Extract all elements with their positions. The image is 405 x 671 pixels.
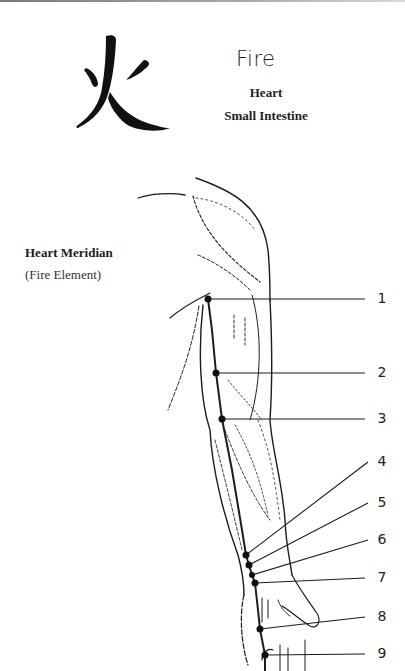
acupoint-7 [252, 580, 259, 587]
acupoint-1 [205, 296, 212, 303]
acupoint-4 [243, 552, 250, 559]
acupoint-6 [249, 572, 255, 578]
point-label-5: 5 [374, 494, 390, 510]
point-label-6: 6 [374, 531, 390, 547]
point-label-4: 4 [374, 453, 390, 469]
acupoint-leaders [0, 0, 405, 671]
acupoint-3 [219, 416, 226, 423]
point-label-9: 9 [374, 645, 390, 661]
acupoint-5 [246, 562, 253, 569]
point-label-3: 3 [374, 410, 390, 426]
point-label-8: 8 [374, 608, 390, 624]
point-label-7: 7 [374, 569, 390, 585]
acupoint-2 [213, 370, 220, 377]
acupoint-8 [257, 626, 264, 633]
point-label-1: 1 [374, 290, 390, 306]
acupoint-9 [262, 652, 269, 659]
point-label-2: 2 [374, 364, 390, 380]
